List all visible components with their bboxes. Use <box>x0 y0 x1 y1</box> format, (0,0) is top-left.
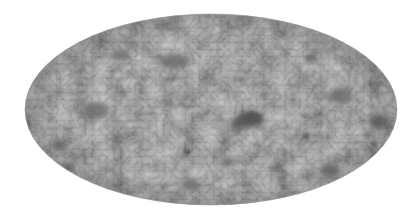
mollweide-sky-map <box>0 0 418 215</box>
map-surface <box>0 0 418 215</box>
